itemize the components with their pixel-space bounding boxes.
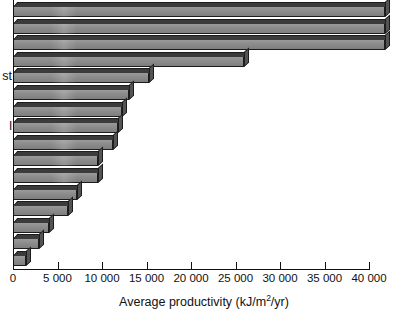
x-axis-tick-label: 40 000 bbox=[343, 272, 395, 284]
bar-front-face bbox=[13, 39, 385, 50]
bar-side-face bbox=[149, 64, 154, 84]
bar-front-face bbox=[13, 205, 68, 216]
x-axis-tick bbox=[191, 262, 192, 270]
bar-top-face bbox=[13, 19, 390, 24]
bar-front-face bbox=[13, 238, 39, 249]
bar-top-face bbox=[13, 201, 73, 206]
bar-row bbox=[13, 35, 390, 50]
bar-row bbox=[13, 251, 31, 266]
bar-row bbox=[13, 2, 390, 17]
bar-top-face bbox=[13, 168, 103, 173]
bar-side-face bbox=[49, 213, 54, 233]
bar-side-face bbox=[26, 246, 31, 266]
bar-row bbox=[13, 102, 127, 117]
bar-row bbox=[13, 52, 249, 67]
bar-front-face bbox=[13, 155, 98, 166]
bar-side-face bbox=[98, 163, 103, 183]
y-axis-category-label: l bbox=[9, 119, 12, 133]
bar-side-face bbox=[68, 197, 73, 217]
bar-front-face bbox=[13, 172, 98, 183]
bar-top-face bbox=[13, 35, 390, 40]
x-axis-tick bbox=[13, 262, 14, 270]
bar-top-face bbox=[13, 118, 123, 123]
x-axis-title: Average productivity (kJ/m2/yr) bbox=[0, 293, 408, 309]
bar-row bbox=[13, 118, 123, 133]
bar-top-face bbox=[13, 135, 117, 140]
bar-front-face bbox=[13, 189, 77, 200]
bar-top-face bbox=[13, 52, 249, 57]
bar-top-face bbox=[13, 2, 390, 7]
bar-side-face bbox=[129, 80, 134, 100]
bar-top-face bbox=[13, 102, 127, 107]
x-axis-tick bbox=[58, 262, 59, 270]
bar-front-face bbox=[13, 255, 26, 266]
bar-side-face bbox=[39, 230, 44, 250]
bar-front-face bbox=[13, 122, 118, 133]
bar-front-face bbox=[13, 139, 113, 150]
bar-row bbox=[13, 218, 54, 233]
bar-front-face bbox=[13, 89, 129, 100]
x-axis-tick bbox=[236, 262, 237, 270]
bar-front-face bbox=[13, 72, 149, 83]
bar-side-face bbox=[113, 130, 118, 150]
x-axis-tick bbox=[147, 262, 148, 270]
x-axis-tick bbox=[325, 262, 326, 270]
bar-front-face bbox=[13, 6, 385, 17]
bar-top-face bbox=[13, 185, 82, 190]
bar-row bbox=[13, 168, 103, 183]
bar-side-face bbox=[118, 114, 123, 134]
x-axis-title-suffix: /yr) bbox=[271, 295, 289, 309]
chart-figure: stl 05 00010 00015 00020 00025 00030 000… bbox=[0, 0, 408, 313]
bar-front-face bbox=[13, 106, 122, 117]
bar-row bbox=[13, 19, 390, 34]
x-axis-tick bbox=[102, 262, 103, 270]
bar-row bbox=[13, 201, 73, 216]
bar-side-face bbox=[77, 180, 82, 200]
bar-top-face bbox=[13, 151, 103, 156]
x-axis-title-prefix: Average productivity (kJ/m bbox=[119, 295, 266, 309]
bar-row bbox=[13, 85, 134, 100]
y-axis-line bbox=[13, 0, 14, 270]
bar-front-face bbox=[13, 56, 244, 67]
bar-side-face bbox=[244, 47, 249, 67]
bar-side-face bbox=[385, 31, 390, 51]
bar-top-face bbox=[13, 218, 54, 223]
x-axis-tick bbox=[369, 262, 370, 270]
bar-side-face bbox=[122, 97, 127, 117]
x-axis-tick bbox=[280, 262, 281, 270]
bar-top-face bbox=[13, 68, 154, 73]
bar-row bbox=[13, 151, 103, 166]
bar-front-face bbox=[13, 23, 385, 34]
bar-front-face bbox=[13, 222, 49, 233]
plot-area bbox=[0, 0, 408, 270]
y-axis-label-clip: stl bbox=[0, 0, 13, 270]
bar-top-face bbox=[13, 85, 133, 90]
y-axis-category-label: st bbox=[2, 69, 12, 83]
